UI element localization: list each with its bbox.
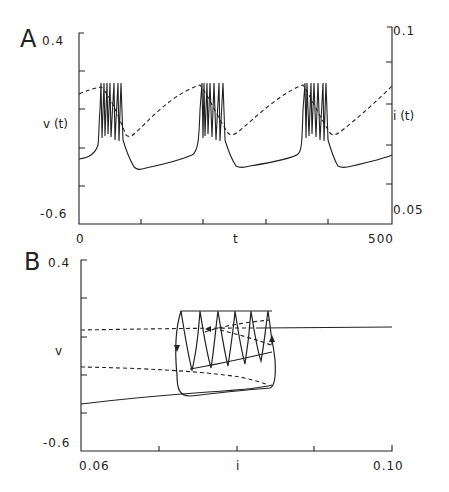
panel-a-xtick-500: 500 [368, 232, 394, 246]
panel-a-letter: A [20, 25, 37, 53]
panel-b-xlabel: i [236, 459, 239, 473]
panel-a-ylabel-right: i (t) [393, 109, 414, 123]
arrow-up-icon [269, 335, 275, 342]
figure: A 0.4 -0.6 v (t) 0.1 0.05 i (t) 0 t 500 [0, 0, 449, 492]
panel-a: A 0.4 -0.6 v (t) 0.1 0.05 i (t) 0 t 500 [20, 24, 424, 246]
panel-a-v-trace [79, 83, 392, 169]
panel-a-xlabel: t [233, 232, 238, 246]
panel-b-ytick-bottom: -0.6 [43, 436, 70, 450]
panel-a-ytick-top: 0.4 [42, 34, 64, 48]
panel-b: B 0.4 -0.6 v 0.06 i 0.10 [24, 248, 404, 473]
panel-b-ylabel: v [55, 344, 62, 358]
panel-a-i-trace [79, 85, 392, 136]
panel-a-ylabel-left: v (t) [43, 117, 68, 131]
panel-a-xtick-0: 0 [76, 232, 85, 246]
panel-b-xtick-006: 0.06 [79, 459, 110, 473]
panel-b-stable-branches [81, 327, 392, 404]
panel-b-burst-trajectory [176, 311, 276, 396]
panel-a-axes [79, 27, 392, 224]
panel-b-letter: B [24, 248, 40, 276]
panel-b-xtick-010: 0.10 [373, 459, 404, 473]
panel-a-ytick-right-top: 0.1 [393, 24, 415, 38]
panel-a-ytick-right-bottom: 0.05 [393, 203, 424, 217]
panel-b-ytick-top: 0.4 [48, 256, 70, 270]
arrow-down-icon [174, 345, 180, 352]
panel-b-axes [81, 260, 392, 451]
panel-a-ytick-bottom: -0.6 [40, 207, 67, 221]
